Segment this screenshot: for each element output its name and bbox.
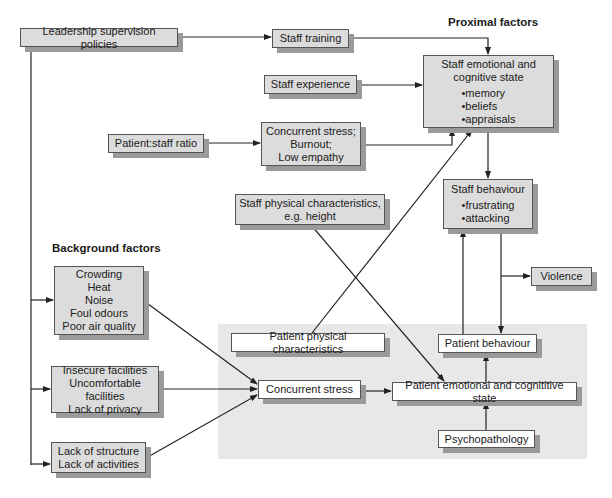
- leadership-supervision-policies-node: Leadership supervision policies: [20, 28, 178, 47]
- node-label: Patient:staff ratio: [115, 137, 197, 150]
- violence-node: Violence: [531, 267, 592, 286]
- staff-physical-characteristics-node: Staff physical characteristics, e.g. hei…: [235, 194, 385, 225]
- bullet-item: memory: [462, 87, 516, 100]
- background-factors-heading: Background factors: [52, 242, 161, 254]
- node-label: Staff experience: [271, 78, 350, 91]
- node-line: Lack of privacy: [68, 403, 141, 416]
- node-line: Foul odours: [70, 307, 128, 320]
- node-line: Concurrent stress;: [266, 125, 356, 138]
- patient-behaviour-node: Patient behaviour: [438, 334, 537, 353]
- node-line: Burnout;: [290, 138, 332, 151]
- node-label: Patient emotional and cognititive state: [396, 379, 573, 405]
- node-line: Poor air quality: [62, 320, 135, 333]
- staff-training-node: Staff training: [272, 29, 349, 48]
- facilities-node: Insecure facilities Uncomfortable facili…: [51, 366, 159, 413]
- staff-behaviour-node: Staff behaviour frustrating attacking: [443, 179, 533, 229]
- node-label: Patient physical characteristics: [235, 330, 381, 356]
- bullet-item: attacking: [462, 212, 515, 225]
- node-label: Staff training: [280, 32, 342, 45]
- bullet-item: appraisals: [462, 113, 516, 126]
- patient-physical-characteristics-node: Patient physical characteristics: [231, 333, 385, 352]
- node-title: cognitive state: [453, 71, 523, 84]
- bullet-item: frustrating: [462, 199, 515, 212]
- node-line: Uncomfortable facilities: [55, 377, 155, 403]
- bullet-list: frustrating attacking: [462, 199, 515, 225]
- node-line: Crowding: [76, 268, 122, 281]
- node-label: Leadership supervision policies: [24, 25, 174, 51]
- bullet-list: memory beliefs appraisals: [462, 87, 516, 126]
- node-line: Insecure facilities: [63, 364, 147, 377]
- concurrent-stress-node: Concurrent stress: [258, 380, 361, 399]
- node-label: Concurrent stress: [266, 383, 353, 396]
- staff-emotional-cognitive-state-node: Staff emotional and cognitive state memo…: [423, 55, 554, 128]
- patient-emotional-cognitive-state-node: Patient emotional and cognititive state: [392, 382, 577, 401]
- node-label: Violence: [541, 270, 583, 283]
- node-label: Patient behaviour: [445, 337, 531, 350]
- concurrent-stress-burnout-node: Concurrent stress; Burnout; Low empathy: [261, 122, 361, 166]
- node-line: Heat: [87, 281, 110, 294]
- node-line: Noise: [85, 294, 113, 307]
- crowding-environment-node: Crowding Heat Noise Foul odours Poor air…: [54, 266, 144, 335]
- node-line: Low empathy: [278, 151, 343, 164]
- proximal-factors-heading: Proximal factors: [448, 16, 538, 28]
- node-line: Lack of activities: [58, 458, 139, 471]
- node-line: Staff physical characteristics,: [239, 197, 381, 210]
- psychopathology-node: Psychopathology: [438, 430, 535, 448]
- node-title: Staff behaviour: [451, 183, 525, 196]
- bullet-item: beliefs: [462, 100, 516, 113]
- node-line: Lack of structure: [58, 445, 139, 458]
- node-title: Staff emotional and: [441, 58, 536, 71]
- staff-experience-node: Staff experience: [264, 75, 357, 94]
- node-label: Psychopathology: [445, 433, 529, 446]
- patient-staff-ratio-node: Patient:staff ratio: [108, 134, 204, 153]
- node-line: e.g. height: [284, 210, 335, 223]
- structure-activities-node: Lack of structure Lack of activities: [51, 442, 146, 473]
